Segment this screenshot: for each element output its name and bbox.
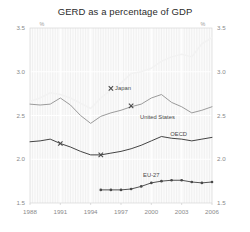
x-tick-label: 1994 [84, 208, 98, 215]
data-point-marker [130, 188, 133, 191]
data-point-marker [150, 182, 153, 185]
x-tick-label: 1991 [53, 208, 67, 215]
y-tick-label-left: 1.5 [16, 199, 25, 206]
percent-mark-right: % [201, 21, 206, 27]
line-chart: JapanUnited StatesOECDEU-27 198819911994… [0, 0, 250, 232]
data-point-marker [110, 189, 113, 192]
y-tick-label-right: 3.5 [217, 24, 226, 31]
y-tick-label-right: 2.5 [217, 112, 226, 119]
y-tick-label-left: 3.0 [16, 68, 25, 75]
data-point-marker [180, 179, 183, 182]
series-label-eu-27: EU-27 [143, 172, 159, 178]
series-label-united-states: United States [140, 114, 175, 120]
x-tick-label: 1988 [23, 208, 37, 215]
data-point-marker [120, 189, 123, 192]
data-point-marker [190, 181, 193, 184]
y-axis-right-labels: 1.52.02.53.03.5 [217, 24, 226, 206]
data-point-marker [99, 189, 102, 192]
percent-mark-left: % [40, 21, 45, 27]
x-tick-label: 1997 [114, 208, 128, 215]
y-tick-label-left: 2.0 [16, 155, 25, 162]
y-tick-label-right: 2.0 [217, 155, 226, 162]
y-tick-label-right: 1.5 [217, 199, 226, 206]
data-point-marker [211, 181, 214, 184]
x-axis-labels: 1988199119941997200020032006 [23, 203, 219, 215]
y-axis-left-labels: 1.52.02.53.03.5 [16, 24, 25, 206]
y-tick-label-left: 2.5 [16, 112, 25, 119]
data-point-marker [170, 179, 173, 182]
x-tick-label: 2000 [144, 208, 158, 215]
chart-page: GERD as a percentage of GDP JapanUnited … [0, 0, 250, 232]
x-tick-label: 2003 [175, 208, 189, 215]
x-tick-label: 2006 [205, 208, 219, 215]
series-label-japan: Japan [115, 85, 131, 91]
percent-unit-marks: % % [40, 21, 206, 27]
y-tick-label-right: 3.0 [217, 68, 226, 75]
y-tick-label-left: 3.5 [16, 24, 25, 31]
data-point-marker [201, 182, 204, 185]
data-point-marker [160, 180, 163, 183]
data-point-marker [140, 185, 143, 188]
series-label-oecd: OECD [170, 131, 187, 137]
